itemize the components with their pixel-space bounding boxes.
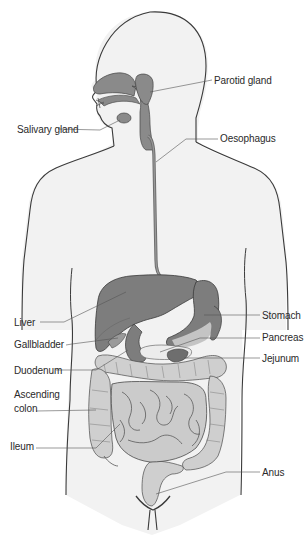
label-salivary-gland: Salivary gland — [17, 124, 78, 135]
label-duodenum: Duodenum — [14, 365, 62, 376]
label-gallbladder: Gallbladder — [14, 339, 64, 350]
label-jejunum: Jejunum — [262, 353, 299, 364]
label-anus: Anus — [262, 467, 284, 478]
label-ascending-colon-line2: colon — [14, 403, 37, 414]
label-liver: Liver — [14, 317, 35, 328]
label-ileum: Ileum — [10, 441, 34, 452]
label-stomach: Stomach — [262, 310, 301, 321]
label-ascending-colon-line1: Ascending — [14, 389, 60, 400]
label-pancreas: Pancreas — [262, 332, 303, 343]
label-oesophagus: Oesophagus — [220, 133, 276, 144]
label-parotid-gland: Parotid gland — [214, 75, 272, 86]
